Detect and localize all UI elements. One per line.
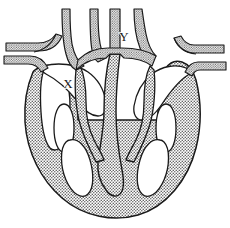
lateral-vessel-right-lower xyxy=(185,62,226,76)
heart-cross-section-svg: X Y xyxy=(0,0,230,228)
lateral-vessel-left-upper xyxy=(6,34,62,51)
label-x: X xyxy=(63,76,73,91)
label-y: Y xyxy=(119,29,129,44)
heart-diagram-figure: X Y xyxy=(0,0,230,228)
heart-body-group: X Y xyxy=(4,9,226,218)
lateral-vessel-left-lower xyxy=(4,56,48,72)
lateral-vessel-right-upper xyxy=(174,36,224,53)
